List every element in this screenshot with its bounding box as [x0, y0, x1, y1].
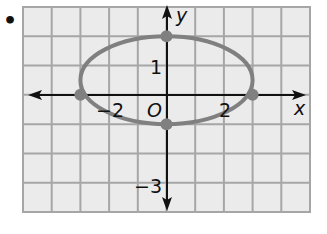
origin-label: O — [147, 99, 162, 121]
x-tick-label-2: 2 — [219, 99, 231, 121]
x-tick-label-neg2: −2 — [96, 99, 124, 121]
y-tick-label-neg3: −3 — [134, 175, 162, 197]
x-axis-label: x — [293, 97, 306, 119]
y-axis-label: y — [175, 4, 188, 26]
item-bullet: • — [3, 8, 17, 33]
data-point — [161, 30, 173, 42]
y-tick-label-1: 1 — [150, 56, 162, 78]
coordinate-plane: • y x O −2 2 1 −3 — [0, 0, 327, 234]
data-point — [74, 89, 86, 101]
data-point — [161, 118, 173, 130]
data-point — [247, 89, 259, 101]
